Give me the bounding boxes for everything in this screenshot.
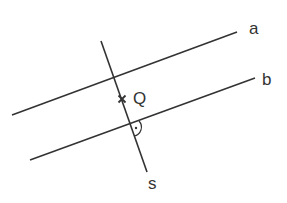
label-s: s xyxy=(148,175,157,192)
label-a: a xyxy=(249,20,258,37)
right-angle-dot-icon xyxy=(135,127,137,129)
label-q: Q xyxy=(133,90,146,107)
label-b: b xyxy=(262,71,271,88)
